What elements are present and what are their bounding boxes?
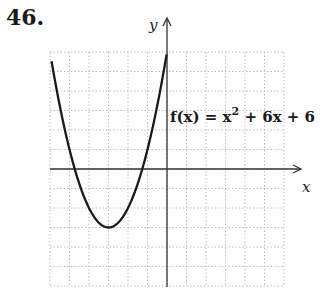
x-axis-label: x bbox=[302, 178, 311, 196]
function-label: f(x) = x2 + 6x + 6 bbox=[170, 105, 315, 126]
parabola-curve bbox=[52, 54, 167, 227]
y-axis-label: y bbox=[148, 16, 158, 34]
graph: x y f(x) = x2 + 6x + 6 bbox=[0, 0, 331, 297]
